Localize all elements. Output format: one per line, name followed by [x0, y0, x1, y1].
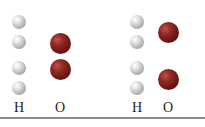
oxygen-atom	[158, 69, 179, 90]
hydrogen-atom	[130, 61, 144, 75]
hydrogen-atom	[12, 81, 26, 95]
hydrogen-atom	[12, 15, 26, 29]
hydrogen-atom	[130, 15, 144, 29]
oxygen-label: O	[55, 101, 65, 115]
hydrogen-atom	[12, 35, 26, 49]
oxygen-atom	[158, 22, 179, 43]
oxygen-atom	[50, 59, 71, 80]
divider-line	[0, 117, 205, 119]
hydrogen-atom	[12, 61, 26, 75]
oxygen-atom	[50, 33, 71, 54]
hydrogen-atom	[130, 81, 144, 95]
hydrogen-label: H	[132, 101, 142, 115]
hydrogen-label: H	[14, 101, 24, 115]
oxygen-label: O	[163, 101, 173, 115]
hydrogen-atom	[130, 35, 144, 49]
